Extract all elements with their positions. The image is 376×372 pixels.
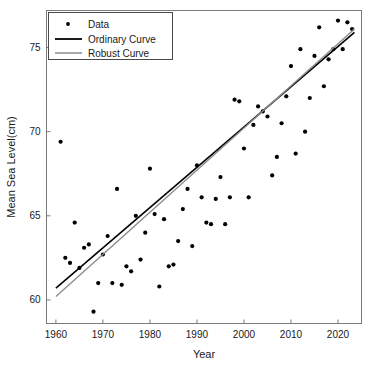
y-axis-label: Mean Sea Level(cm) (5, 116, 17, 218)
y-tick-label: 60 (29, 294, 41, 305)
data-point (63, 256, 67, 260)
data-point (275, 155, 279, 159)
data-point (190, 244, 194, 248)
data-point (185, 187, 189, 191)
data-point (68, 261, 72, 265)
data-point (223, 222, 227, 226)
y-tick-label: 75 (29, 42, 41, 53)
x-tick-label: 1970 (92, 329, 115, 340)
data-point (294, 151, 298, 155)
data-point (148, 167, 152, 171)
data-point (134, 214, 138, 218)
data-point (82, 246, 86, 250)
data-point (312, 54, 316, 58)
data-point (289, 64, 293, 68)
data-point (336, 18, 340, 22)
data-point (143, 231, 147, 235)
data-point (162, 217, 166, 221)
data-point (209, 222, 213, 226)
x-tick-label: 1980 (139, 329, 162, 340)
legend-label-ordinary-curve: Ordinary Curve (88, 34, 156, 45)
data-point (91, 310, 95, 314)
data-point (138, 257, 142, 261)
data-point (265, 114, 269, 118)
data-point (87, 242, 91, 246)
data-point (181, 207, 185, 211)
y-tick-label: 70 (29, 126, 41, 137)
x-tick-label: 1990 (186, 329, 209, 340)
data-point (270, 173, 274, 177)
data-point (204, 220, 208, 224)
x-tick-label: 2020 (327, 329, 350, 340)
chart-svg: 1960197019801990200020102020 60657075 Ye… (0, 0, 376, 372)
data-point (120, 283, 124, 287)
data-point (73, 220, 77, 224)
data-point (200, 195, 204, 199)
data-point (115, 187, 119, 191)
legend-label-robust-curve: Robust Curve (88, 48, 150, 59)
legend-marker-dot-icon (66, 22, 70, 26)
data-point (124, 264, 128, 268)
data-point (110, 281, 114, 285)
data-point (153, 212, 157, 216)
data-point (341, 47, 345, 51)
data-point (106, 234, 110, 238)
data-point (96, 281, 100, 285)
data-point (303, 130, 307, 134)
legend-label-data: Data (88, 19, 110, 30)
data-point (247, 195, 251, 199)
data-point (345, 20, 349, 24)
data-point (157, 284, 161, 288)
x-tick-label: 2000 (233, 329, 256, 340)
data-point (256, 104, 260, 108)
data-point (298, 47, 302, 51)
legend: Data Ordinary Curve Robust Curve (49, 13, 173, 60)
data-point (167, 264, 171, 268)
data-point (284, 94, 288, 98)
data-point (279, 121, 283, 125)
figure-canvas: 1960197019801990200020102020 60657075 Ye… (0, 0, 376, 372)
data-point (214, 197, 218, 201)
x-tick-label: 1960 (45, 329, 68, 340)
data-point (237, 99, 241, 103)
x-axis-label: Year (193, 348, 216, 360)
y-tick-label: 65 (29, 210, 41, 221)
data-point (232, 98, 236, 102)
data-point (322, 84, 326, 88)
data-point (242, 146, 246, 150)
data-point (308, 96, 312, 100)
data-point (317, 25, 321, 29)
data-point (129, 269, 133, 273)
data-point (251, 123, 255, 127)
data-point (218, 175, 222, 179)
data-point (326, 57, 330, 61)
data-point (59, 140, 63, 144)
data-point (176, 239, 180, 243)
x-tick-label: 2010 (280, 329, 303, 340)
data-point (228, 195, 232, 199)
data-point (171, 263, 175, 267)
